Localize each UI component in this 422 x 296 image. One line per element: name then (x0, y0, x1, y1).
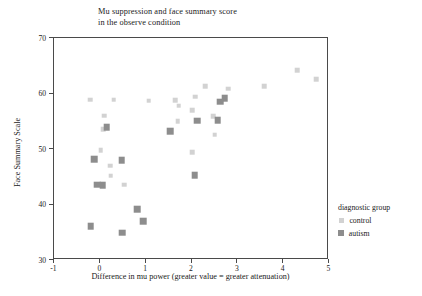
y-axis-title: Face Summary Scale (13, 88, 22, 218)
data-point-control (102, 113, 107, 118)
data-point-control (175, 119, 180, 124)
data-point-control (109, 173, 114, 178)
legend-swatch-autism (338, 230, 344, 236)
data-point-control (147, 98, 152, 103)
data-point-control (98, 148, 103, 153)
data-point-autism (214, 117, 221, 124)
data-point-autism (103, 124, 110, 131)
y-tick-mark: 50 (49, 148, 53, 149)
data-point-control (190, 108, 195, 113)
x-tick-mark: 1 (145, 259, 146, 263)
data-point-autism (194, 117, 201, 124)
x-tick-mark: -1 (53, 259, 54, 263)
x-axis-title: Difference in mu power (greater value = … (53, 272, 328, 281)
x-tick-mark: 0 (99, 259, 100, 263)
data-point-control (173, 98, 178, 103)
data-point-control (213, 132, 218, 137)
y-tick-label: 40 (38, 200, 46, 209)
data-point-control (111, 97, 116, 102)
legend-item-autism[interactable]: autism (338, 229, 422, 238)
data-point-control (203, 84, 208, 89)
data-point-control (226, 86, 231, 91)
plot-frame (53, 37, 328, 259)
y-tick-mark: 70 (49, 37, 53, 38)
y-tick-label: 60 (38, 89, 46, 98)
data-point-control (122, 182, 127, 187)
data-point-control (262, 84, 267, 89)
y-tick-mark: 60 (49, 93, 53, 94)
data-point-control (314, 77, 319, 82)
data-point-autism (217, 99, 224, 106)
legend-swatch-control (339, 218, 344, 223)
y-tick-label: 70 (38, 33, 46, 42)
legend-label: control (349, 216, 371, 225)
plot-area (54, 38, 327, 258)
data-point-autism (99, 182, 106, 189)
legend-item-control[interactable]: control (338, 216, 422, 225)
y-tick-label: 50 (38, 144, 46, 153)
data-point-control (190, 150, 195, 155)
x-tick-mark: 3 (236, 259, 237, 263)
y-tick-label: 30 (38, 255, 46, 264)
data-point-control (108, 163, 113, 168)
data-point-autism (87, 223, 94, 230)
legend-title: diagnostic group (338, 203, 422, 212)
chart-title: Mu suppression and face summary score in… (98, 6, 338, 28)
data-point-control (295, 68, 300, 73)
data-point-autism (91, 156, 98, 163)
data-point-autism (134, 206, 141, 213)
data-point-control (176, 103, 181, 108)
y-tick-mark: 40 (49, 204, 53, 205)
data-point-autism (119, 157, 126, 164)
legend-items: controlautism (338, 216, 422, 238)
data-point-autism (140, 218, 147, 225)
data-point-autism (119, 230, 126, 237)
scatter-plot-figure: Mu suppression and face summary score in… (0, 0, 422, 296)
data-point-control (88, 97, 93, 102)
data-point-autism (191, 172, 198, 179)
legend-label: autism (349, 229, 370, 238)
x-tick-mark: 2 (191, 259, 192, 263)
legend: diagnostic group controlautism (338, 203, 422, 241)
data-point-control (193, 95, 198, 100)
x-tick-mark: 5 (328, 259, 329, 263)
x-tick-mark: 4 (282, 259, 283, 263)
data-point-autism (167, 128, 174, 135)
